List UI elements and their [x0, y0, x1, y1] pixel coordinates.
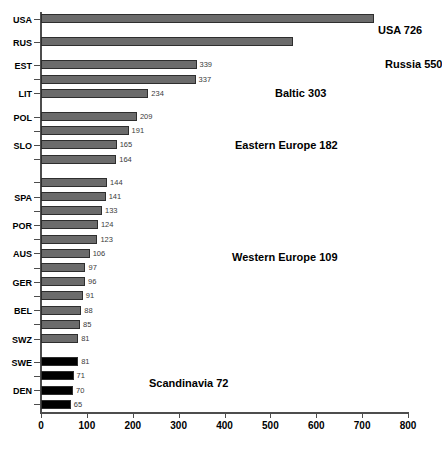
y-tick-mark — [34, 131, 40, 132]
y-tick-mark — [34, 282, 40, 283]
bar-value-label: 141 — [109, 192, 122, 201]
x-tick-mark — [87, 412, 88, 418]
x-tick-mark — [408, 412, 409, 418]
bar-value-label: 81 — [81, 334, 89, 343]
y-tick-mark — [34, 117, 40, 118]
x-tick-mark — [270, 412, 271, 418]
group-annotation: Russia 550 — [385, 58, 442, 70]
group-annotation: Western Europe 109 — [232, 251, 338, 263]
bar — [41, 178, 107, 187]
y-tick-mark — [34, 324, 40, 325]
bar — [41, 235, 97, 244]
x-tick-mark — [316, 412, 317, 418]
bar — [41, 37, 293, 46]
y-tick-mark — [34, 19, 40, 20]
category-label: SWE — [0, 358, 32, 368]
bar — [41, 14, 374, 23]
bar-value-label: 81 — [81, 357, 89, 366]
category-label: SWZ — [0, 335, 32, 345]
y-tick-mark — [34, 225, 40, 226]
y-tick-mark — [34, 65, 40, 66]
bar — [41, 126, 129, 135]
y-tick-mark — [34, 79, 40, 80]
y-tick-mark — [34, 296, 40, 297]
bar — [41, 291, 83, 300]
x-tick-mark — [179, 412, 180, 418]
bar — [41, 140, 117, 149]
y-tick-mark — [34, 404, 40, 405]
bar-value-label: 234 — [151, 89, 164, 98]
y-tick-mark — [34, 182, 40, 183]
y-tick-mark — [34, 93, 40, 94]
bar — [41, 89, 148, 98]
bar-value-label: 91 — [86, 291, 94, 300]
bar-value-label: 85 — [83, 320, 91, 329]
bar — [41, 220, 98, 229]
bar-value-label: 123 — [100, 235, 113, 244]
x-tick-label: 400 — [216, 420, 233, 431]
y-tick-mark — [34, 362, 40, 363]
y-tick-mark — [34, 145, 40, 146]
y-tick-mark — [34, 268, 40, 269]
bar-value-label: 88 — [84, 306, 92, 315]
bar-value-label: 97 — [88, 263, 96, 272]
y-tick-mark — [34, 376, 40, 377]
bar — [41, 249, 90, 258]
category-label: GER — [0, 278, 32, 288]
category-label: SLO — [0, 141, 32, 151]
category-label: DEN — [0, 386, 32, 396]
bar-value-label: 106 — [93, 249, 106, 258]
category-label: EST — [0, 61, 32, 71]
x-tick-label: 0 — [38, 420, 44, 431]
bar-value-label: 133 — [105, 206, 118, 215]
x-tick-label: 500 — [262, 420, 279, 431]
x-tick-label: 200 — [124, 420, 141, 431]
category-label: RUS — [0, 38, 32, 48]
y-tick-mark — [34, 239, 40, 240]
x-tick-mark — [41, 412, 42, 418]
x-tick-label: 100 — [79, 420, 96, 431]
bar — [41, 400, 71, 409]
bar-value-label: 70 — [76, 386, 84, 395]
bar — [41, 386, 73, 395]
bar-value-label: 164 — [119, 155, 132, 164]
category-label: LIT — [0, 89, 32, 99]
bar-value-label: 124 — [101, 220, 114, 229]
x-tick-mark — [133, 412, 134, 418]
category-label: USA — [0, 15, 32, 25]
group-annotation: USA 726 — [378, 24, 422, 36]
x-tick-label: 600 — [308, 420, 325, 431]
bar — [41, 357, 78, 366]
bar — [41, 155, 116, 164]
category-label: SPA — [0, 193, 32, 203]
bar — [41, 306, 81, 315]
category-label: BEL — [0, 306, 32, 316]
y-tick-mark — [34, 339, 40, 340]
group-annotation: Scandinavia 72 — [149, 377, 229, 389]
y-tick-mark — [34, 159, 40, 160]
bar — [41, 192, 106, 201]
y-tick-mark — [34, 211, 40, 212]
bar — [41, 206, 102, 215]
bar-value-label: 144 — [110, 178, 123, 187]
bar-value-label: 71 — [77, 371, 85, 380]
bar — [41, 320, 80, 329]
category-label: POL — [0, 113, 32, 123]
y-tick-mark — [34, 390, 40, 391]
x-tick-label: 800 — [400, 420, 417, 431]
bar — [41, 75, 196, 84]
bar-value-label: 165 — [120, 140, 133, 149]
bar — [41, 334, 78, 343]
y-tick-mark — [34, 197, 40, 198]
bar-value-label: 337 — [199, 75, 212, 84]
bar — [41, 371, 74, 380]
group-annotation: Baltic 303 — [275, 87, 326, 99]
y-tick-mark — [34, 253, 40, 254]
x-tick-mark — [362, 412, 363, 418]
group-annotation: Eastern Europe 182 — [235, 139, 338, 151]
category-label: POR — [0, 221, 32, 231]
bar-value-label: 96 — [88, 277, 96, 286]
bar-value-label: 209 — [140, 112, 153, 121]
bar — [41, 277, 85, 286]
bar — [41, 112, 137, 121]
